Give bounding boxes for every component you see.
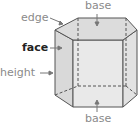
label-edge: edge <box>21 12 49 24</box>
label-base-bottom: base <box>85 113 111 125</box>
label-base-top: base <box>85 0 111 12</box>
right-face <box>123 30 137 107</box>
label-face: face <box>22 42 48 54</box>
top-base <box>55 18 137 40</box>
label-height: height <box>0 67 35 79</box>
left-face <box>55 30 73 107</box>
front-face <box>73 40 123 107</box>
